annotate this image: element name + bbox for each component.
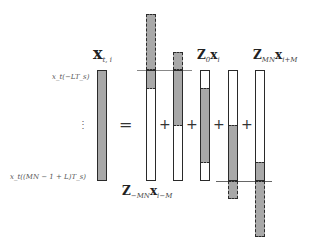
plus-sign-2: + (186, 117, 198, 131)
lhs-label-sub: t, i (103, 56, 113, 64)
bar4-segment-dashed-filled (228, 181, 238, 199)
bar2-segment-empty (173, 125, 183, 181)
bar3-label-x-sub: i (217, 56, 219, 64)
lhs-segment-filled (97, 70, 107, 181)
bar4-segment-filled (228, 125, 238, 181)
equals-sign: = (119, 117, 132, 133)
bar1-segment-dashed-filled (146, 14, 156, 70)
bar3-label-z: Z (197, 48, 206, 62)
bar1-label-x-sub: i−M (157, 192, 172, 200)
bar5-segment-filled (255, 162, 265, 181)
lhs-label-main: x (93, 44, 103, 63)
vertical-ellipsis: ⋮ (78, 120, 88, 130)
bar5-segment-empty (255, 70, 265, 162)
plus-sign-3: + (213, 117, 225, 131)
bar1-segment-filled (146, 70, 156, 88)
bar1-label: Z−MNxi−M (122, 185, 172, 200)
bar5-label-z: Z (253, 48, 262, 62)
bar5-label-x-sub: i+M (282, 56, 297, 64)
lhs-label: xt, i (93, 46, 112, 64)
plus-sign-4: + (241, 117, 253, 131)
top-sample-label: x_t(−LT_s) (52, 74, 89, 81)
bar2-segment-filled (173, 70, 183, 125)
bar1-label-z-sub: −MN (131, 192, 150, 200)
bar1-segment-empty (146, 88, 156, 181)
bar3-label: Z0xi (197, 49, 220, 64)
bar3-segment-empty (200, 162, 210, 181)
plus-sign-1: + (159, 117, 171, 131)
bar2-segment-dashed-filled (173, 52, 183, 70)
bar3-segment-empty (200, 70, 210, 88)
bar4-segment-empty (228, 70, 238, 125)
bar5-label-z-sub: MN (262, 56, 275, 64)
bar3-segment-filled (200, 88, 210, 162)
bar5-segment-dashed-filled (255, 181, 265, 237)
bar5-label: ZMNxi+M (253, 49, 298, 64)
bottom-sample-label: x_t((MN − 1 + L)T_s) (10, 174, 86, 181)
bar1-label-z: Z (122, 184, 131, 198)
